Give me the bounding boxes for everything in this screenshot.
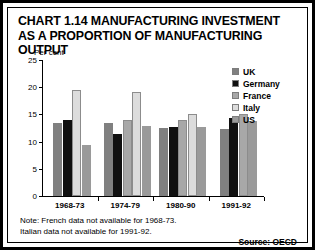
bar-germany [229, 118, 238, 196]
legend-item-germany: Germany [232, 78, 280, 89]
bar-germany [169, 127, 178, 196]
plot-area: 0510152025 1968-731974-791980-901991-92 [42, 60, 264, 197]
chart-notes: Note: French data not available for 1968… [20, 216, 177, 237]
bar-us [197, 127, 206, 196]
y-axis-tick-mark [39, 142, 42, 143]
legend-swatch-icon [232, 104, 239, 111]
bar-germany [63, 120, 72, 196]
bar-group [104, 60, 151, 196]
x-axis-tick-label: 1974-79 [98, 201, 154, 210]
bar-uk [159, 128, 168, 196]
bar-us [248, 121, 257, 196]
bar-italy [132, 92, 141, 196]
chart-legend: UKGermanyFranceItalyUS [232, 66, 280, 126]
chart-figure: CHART 1.14 MANUFACTURING INVESTMENT AS A… [0, 0, 315, 250]
x-axis-tick-label: 1980-90 [153, 201, 209, 210]
bar-uk [104, 123, 113, 196]
y-axis-tick-mark [39, 87, 42, 88]
y-axis-tick-label: 10 [21, 139, 37, 147]
legend-item-label: Italy [243, 103, 260, 113]
bar-group [159, 60, 206, 196]
y-axis-tick-label: 25 [21, 57, 37, 65]
legend-swatch-icon [232, 68, 239, 75]
y-axis-tick-label: 5 [21, 166, 37, 174]
bar-italy [188, 114, 197, 196]
y-axis-tick-mark [39, 114, 42, 115]
legend-swatch-icon [232, 116, 239, 123]
bar-group [53, 60, 91, 196]
legend-item-label: Germany [243, 79, 280, 89]
bar-france [123, 120, 132, 196]
legend-item-france: France [232, 90, 280, 101]
bar-uk [53, 123, 62, 196]
x-axis-tick-label: 1991-92 [209, 201, 265, 210]
y-axis-tick-mark [39, 169, 42, 170]
bar-italy [72, 90, 81, 196]
legend-item-label: France [243, 91, 271, 101]
bar-germany [113, 134, 122, 196]
y-axis-unit-label: Per cent [34, 48, 64, 57]
bar-uk [220, 129, 229, 196]
bar-us [82, 145, 91, 196]
x-axis-tick-label: 1968-73 [42, 201, 98, 210]
legend-item-us: US [232, 114, 280, 125]
legend-swatch-icon [232, 80, 239, 87]
y-axis-tick-label: 15 [21, 111, 37, 119]
chart-inner-frame: CHART 1.14 MANUFACTURING INVESTMENT AS A… [7, 7, 308, 243]
legend-item-uk: UK [232, 66, 280, 77]
legend-item-italy: Italy [232, 102, 280, 113]
x-axis-tick-mark [264, 197, 265, 201]
note-line-2: Italian data not available for 1991-92. [20, 227, 177, 238]
y-axis-tick-label: 20 [21, 84, 37, 92]
bar-france [239, 114, 248, 196]
y-axis-tick-mark [39, 60, 42, 61]
y-axis-tick-label: 0 [21, 193, 37, 201]
y-axis-line [42, 60, 43, 197]
bar-us [142, 126, 151, 196]
legend-item-label: US [243, 115, 255, 125]
bar-france [178, 120, 187, 196]
legend-item-label: UK [243, 67, 255, 77]
chart-source: Source: OECD [238, 237, 297, 247]
legend-swatch-icon [232, 92, 239, 99]
y-axis-tick-mark [39, 196, 42, 197]
note-line-1: Note: French data not available for 1968… [20, 216, 177, 227]
